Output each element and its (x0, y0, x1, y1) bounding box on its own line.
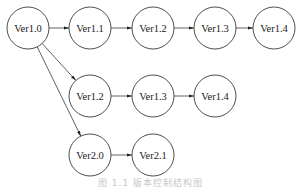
version-node: Ver1.3 (194, 7, 236, 49)
node-label: Ver1.4 (260, 23, 288, 34)
version-node: Ver1.2 (132, 7, 174, 49)
node-label: Ver1.2 (76, 91, 104, 102)
figure-caption: 图 1.1 版本控制结构图 (0, 176, 301, 189)
node-label: Ver1.3 (201, 23, 229, 34)
version-node: Ver2.1 (132, 134, 174, 176)
nodes: Ver1.0Ver1.1Ver1.2Ver1.3Ver1.4Ver1.2Ver1… (7, 7, 295, 176)
node-label: Ver2.0 (76, 150, 104, 161)
version-node: Ver1.2 (69, 75, 111, 117)
version-node: Ver1.1 (69, 7, 111, 49)
version-node: Ver2.0 (69, 134, 111, 176)
node-label: Ver1.3 (139, 91, 167, 102)
node-label: Ver1.4 (201, 91, 229, 102)
node-label: Ver1.0 (14, 23, 42, 34)
version-tree-diagram: Ver1.0Ver1.1Ver1.2Ver1.3Ver1.4Ver1.2Ver1… (0, 0, 301, 189)
node-label: Ver2.1 (139, 150, 167, 161)
version-node: Ver1.4 (194, 75, 236, 117)
edge-arrow (42, 44, 76, 81)
version-node: Ver1.4 (253, 7, 295, 49)
node-label: Ver1.1 (76, 23, 104, 34)
version-node: Ver1.0 (7, 7, 49, 49)
node-label: Ver1.2 (139, 23, 167, 34)
version-node: Ver1.3 (132, 75, 174, 117)
